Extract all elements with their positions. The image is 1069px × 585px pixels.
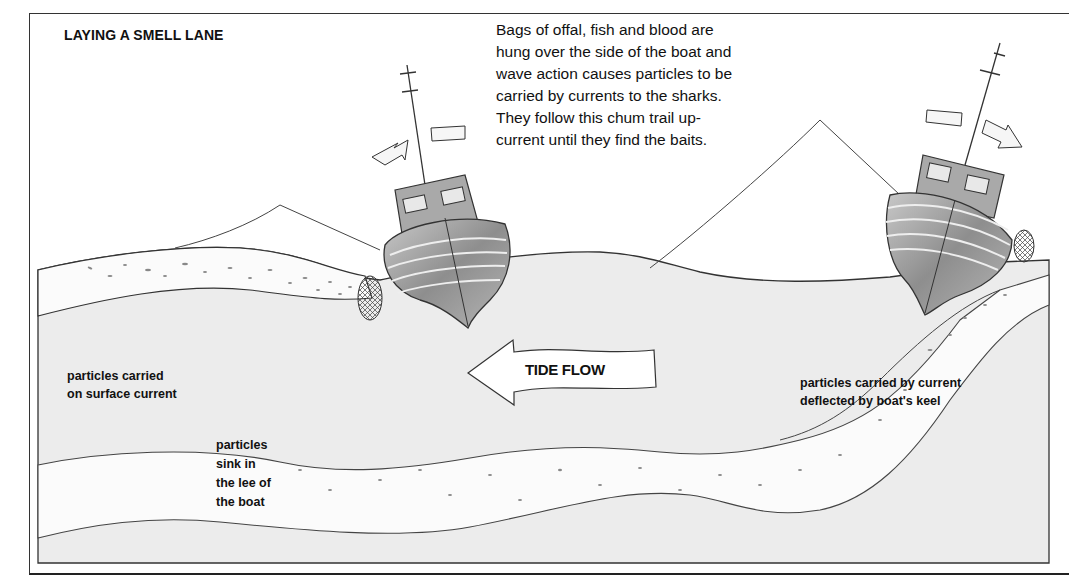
label-line: particles carried	[67, 367, 177, 385]
label-line: particles	[216, 436, 271, 455]
label-line: the boat	[216, 493, 271, 512]
label-line: deflected by boat's keel	[800, 392, 961, 410]
chum-bag-net-left	[358, 276, 382, 320]
caption-line: Bags of offal, fish and blood are	[496, 19, 796, 41]
caption-line: carried by currents to the sharks.	[496, 85, 796, 107]
caption-line: They follow this chum trail up-	[496, 107, 796, 129]
left-fishing-boat	[358, 65, 510, 328]
caption-line: hung over the side of the boat and	[496, 41, 796, 63]
right-drift-arrow	[926, 110, 1022, 148]
label-line: particles carried by current	[800, 374, 961, 392]
surface-current-label: particles carried on surface current	[67, 367, 177, 403]
caption-line: current until they find the baits.	[496, 129, 796, 151]
label-line: the lee of	[216, 474, 271, 493]
label-line: on surface current	[67, 385, 177, 403]
caption-line: wave action causes particles to be	[496, 63, 796, 85]
sink-in-lee-label: particles sink in the lee of the boat	[216, 436, 271, 512]
chum-bag-net-right	[1014, 230, 1034, 262]
caption-text: Bags of offal, fish and blood are hung o…	[496, 19, 796, 151]
tide-flow-label: TIDE FLOW	[525, 361, 605, 378]
left-fishing-line	[175, 205, 380, 250]
diagram-title: LAYING A SMELL LANE	[64, 27, 224, 43]
keel-deflection-label: particles carried by current deflected b…	[800, 374, 961, 410]
label-line: sink in	[216, 455, 271, 474]
